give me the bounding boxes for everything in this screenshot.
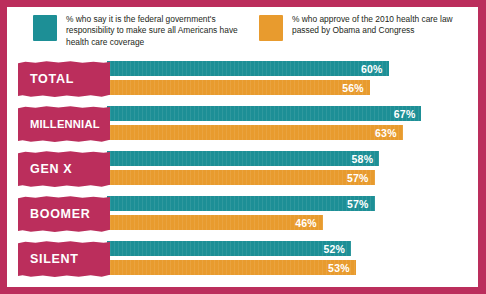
bar-value-total-approve-law: 56%: [342, 82, 370, 94]
legend-swatch-amber-icon: [259, 15, 283, 41]
bar-silent-approve-law: 53%: [107, 260, 356, 275]
bar-value-boomer-responsibility: 57%: [347, 198, 375, 210]
category-plaque-gen-x: GEN X: [18, 151, 110, 187]
bar-value-gen-x-responsibility: 58%: [352, 153, 380, 165]
bar-value-silent-responsibility: 52%: [323, 243, 351, 255]
bar-total-approve-law: 56%: [107, 80, 370, 95]
legend-swatch-teal-icon: [33, 15, 57, 41]
chart-row-millennial: MILLENNIAL 67% 63%: [7, 104, 478, 146]
category-label-gen-x: GEN X: [18, 162, 72, 176]
bar-value-gen-x-approve-law: 57%: [347, 172, 375, 184]
bar-gen-x-responsibility: 58%: [107, 151, 379, 166]
chart-row-silent: SILENT 52% 53%: [7, 239, 478, 281]
bar-value-boomer-approve-law: 46%: [295, 217, 323, 229]
legend-item-responsibility: % who say it is the federal government's…: [33, 14, 258, 48]
bar-value-millennial-approve-law: 63%: [375, 127, 403, 139]
legend-label-approve-law: % who approve of the 2010 health care la…: [292, 14, 474, 37]
chart-canvas: % who say it is the federal government's…: [7, 7, 478, 287]
category-label-millennial: MILLENNIAL: [18, 118, 100, 130]
category-label-silent: SILENT: [18, 252, 79, 266]
bar-value-silent-approve-law: 53%: [328, 262, 356, 274]
category-plaque-millennial: MILLENNIAL: [18, 106, 110, 142]
bar-silent-responsibility: 52%: [107, 241, 351, 256]
chart-row-boomer: BOOMER 57% 46%: [7, 194, 478, 236]
bar-boomer-responsibility: 57%: [107, 196, 375, 211]
bar-value-millennial-responsibility: 67%: [394, 108, 422, 120]
category-label-total: TOTAL: [18, 72, 74, 86]
bar-value-total-responsibility: 60%: [361, 63, 389, 75]
chart-rows: TOTAL 60% 56% MILLENNIAL 67% 63%: [7, 59, 478, 285]
bar-gen-x-approve-law: 57%: [107, 170, 375, 185]
bar-millennial-responsibility: 67%: [107, 106, 421, 121]
legend-item-approve-law: % who approve of the 2010 health care la…: [259, 14, 474, 41]
bar-millennial-approve-law: 63%: [107, 125, 403, 140]
bar-boomer-approve-law: 46%: [107, 215, 323, 230]
category-plaque-silent: SILENT: [18, 241, 110, 277]
category-plaque-boomer: BOOMER: [18, 196, 110, 232]
category-plaque-total: TOTAL: [18, 61, 110, 97]
chart-row-gen-x: GEN X 58% 57%: [7, 149, 478, 191]
legend-label-responsibility: % who say it is the federal government's…: [66, 14, 258, 48]
category-label-boomer: BOOMER: [18, 207, 90, 221]
chart-row-total: TOTAL 60% 56%: [7, 59, 478, 101]
infographic-frame: % who say it is the federal government's…: [0, 0, 486, 294]
bar-total-responsibility: 60%: [107, 61, 389, 76]
chart-legend: % who say it is the federal government's…: [7, 14, 478, 62]
